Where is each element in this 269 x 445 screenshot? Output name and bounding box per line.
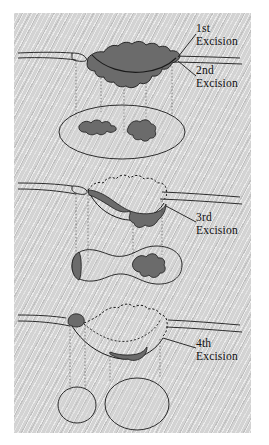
- leader-line-fourth: [163, 338, 196, 348]
- label-second-word: Excision: [196, 77, 238, 90]
- stage-3-group: [18, 304, 242, 430]
- label-fourth-ordinal: 4th: [196, 337, 238, 350]
- stage-3-skin-lines: [18, 315, 70, 326]
- stage-2-skin-lines-right: [160, 192, 242, 204]
- leader-line-first: [178, 34, 196, 57]
- label-third-word: Excision: [196, 224, 238, 237]
- label-first-excision: 1st Excision: [196, 22, 238, 47]
- stage-2-skin-lines: [18, 183, 87, 194]
- label-fourth-word: Excision: [196, 350, 238, 363]
- label-second-ordinal: 2nd: [196, 64, 238, 77]
- stage-1-specimen-outline: [59, 105, 185, 159]
- stage-3-skin-lines-right: [166, 320, 242, 332]
- leader-line-third: [166, 206, 196, 222]
- excision-stages-figure: 1st Excision 2nd Excision 3rd Excision 4…: [0, 0, 269, 445]
- stage-2-specimen-island-left: [72, 252, 81, 280]
- leader-lines: [163, 34, 196, 348]
- label-third-ordinal: 3rd: [196, 211, 238, 224]
- stage-3-inner-dotted-contour: [84, 320, 160, 341]
- stage-3-tumor-nodule: [68, 314, 84, 327]
- stage-1-tumor-mass: [87, 41, 180, 87]
- label-second-excision: 2nd Excision: [196, 64, 238, 89]
- label-first-word: Excision: [196, 35, 238, 48]
- leader-line-second: [178, 61, 196, 76]
- stage-3-tumor-floor-patch: [110, 347, 147, 360]
- stage-3-specimen-circle-right: [105, 378, 169, 430]
- label-third-excision: 3rd Excision: [196, 211, 238, 236]
- stage-3-prior-defect-outline: [84, 304, 167, 337]
- stage-2-specimen-outline: [72, 246, 182, 284]
- stage-1-group: [18, 41, 242, 159]
- label-first-ordinal: 1st: [196, 22, 238, 35]
- label-fourth-excision: 4th Excision: [196, 337, 238, 362]
- stage-3-specimen-circle-left: [58, 387, 96, 423]
